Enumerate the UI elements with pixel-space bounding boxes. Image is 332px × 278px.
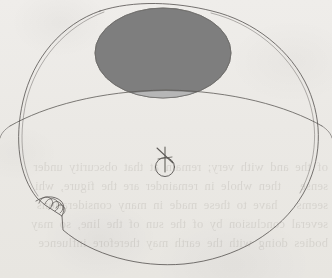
center-symbol xyxy=(156,147,175,177)
coil-group xyxy=(36,197,65,216)
inner-arc-left-tail xyxy=(0,126,10,138)
inner-arc-right-tail xyxy=(322,126,332,138)
diagram-drawing xyxy=(0,0,332,278)
coil-icon-base xyxy=(36,197,64,216)
figure-root: of the and with very; remain at that obs… xyxy=(0,0,332,278)
shaded-ellipse xyxy=(95,8,231,98)
coil-icon-turn-3 xyxy=(51,202,63,213)
